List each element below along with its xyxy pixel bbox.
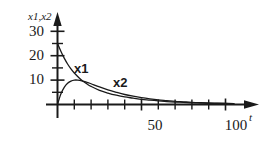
y-tick-label-20: 20 xyxy=(18,48,44,63)
y-tick-label-10: 10 xyxy=(18,72,44,87)
curve-x2 xyxy=(58,80,234,105)
y-tick-label-30: 30 xyxy=(18,24,44,39)
y-axis-arrowhead xyxy=(53,12,61,26)
x-axis-arrowhead xyxy=(244,100,259,108)
curve-label-x1: x1 xyxy=(74,62,88,75)
x-tick-label-100: 100 xyxy=(218,118,254,133)
x-tick-label-50: 50 xyxy=(138,118,172,133)
y-axis-title: x1,x2 xyxy=(28,11,52,22)
curve-label-x2: x2 xyxy=(113,76,127,89)
exponential-decay-chart: x1,x2 t 30 20 10 50 100 x1 x2 xyxy=(0,0,275,148)
